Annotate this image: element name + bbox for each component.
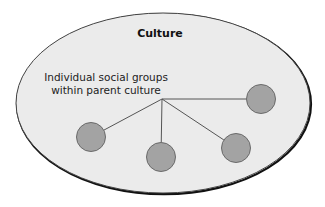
groups-label-line-2: within parent culture [51,84,161,96]
group-left-circle [77,123,106,152]
group-right-lower-circle [222,134,251,163]
group-bottom-center-circle [147,143,176,172]
group-right-upper-circle [247,85,276,114]
culture-diagram: Culture Individual social groups within … [0,0,325,207]
groups-label-line-1: Individual social groups [44,71,168,83]
culture-title: Culture [137,27,183,40]
